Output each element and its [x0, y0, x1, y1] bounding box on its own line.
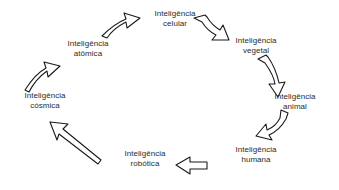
arrow-cosmica-to-atomica-icon: [25, 62, 60, 92]
arrow-animal-to-humana-icon: [256, 110, 288, 140]
arrow-celular-to-vegetal-icon: [194, 15, 229, 40]
intelligence-cycle-diagram: Inteligência celular Inteligência vegeta…: [0, 0, 339, 190]
cycle-arrows-group: [0, 0, 339, 190]
arrow-humana-to-robotica-icon: [176, 157, 207, 174]
arrow-vegetal-to-animal-icon: [258, 55, 285, 97]
arrow-atomica-to-celular-icon: [102, 13, 140, 38]
arrow-robotica-to-cosmica-icon: [50, 122, 101, 164]
